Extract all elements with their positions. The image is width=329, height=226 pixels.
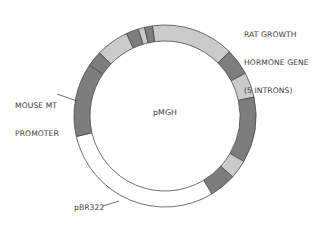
plasmid-diagram: RAT GROWTH HORMONE GENE (5 INTRONS) MOUS… [0, 0, 329, 226]
mouse-label-line-1: MOUSE MT [15, 101, 59, 110]
plasmid-segment-pbr322 [76, 133, 212, 207]
mouse-label-line-2: PROMOTER [15, 129, 59, 138]
rat-growth-hormone-gene-label: RAT GROWTH HORMONE GENE (5 INTRONS) [244, 12, 309, 113]
pbr322-leader [103, 201, 119, 206]
pbr322-label: pBR322 [74, 203, 104, 212]
rat-label-line-3: (5 INTRONS) [244, 86, 309, 95]
mouse-promoter-leader [57, 94, 77, 101]
plasmid-name-label: pMGH [153, 108, 177, 117]
mouse-mt-promoter-label: MOUSE MT PROMOTER [15, 83, 59, 157]
rat-label-line-2: HORMONE GENE [244, 58, 309, 67]
rat-label-line-1: RAT GROWTH [244, 30, 309, 39]
plasmid-segment-rat-gh-gene [152, 25, 229, 63]
plasmid-segment-mouse-mt-promoter [74, 65, 103, 136]
